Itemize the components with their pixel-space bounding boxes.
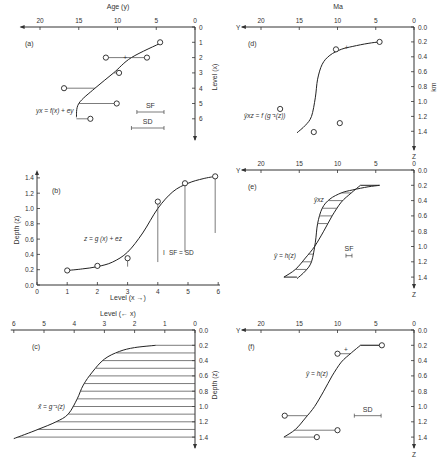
z-axis-name: Z (412, 291, 416, 298)
y-axis-label: Depth (z) (211, 371, 219, 400)
x-tick-label: 0 (193, 320, 197, 327)
y-axis-arrow (412, 146, 416, 151)
y-axis-arrow (412, 284, 416, 289)
x-tick-label: 5 (374, 160, 378, 167)
y-tick-label: 0.2 (418, 38, 427, 45)
y-tick-label: 0.6 (418, 68, 427, 75)
scale-bar-label: SD (363, 406, 373, 413)
panel-label: (c) (32, 343, 40, 351)
y-tick-label: 1.2 (25, 190, 34, 197)
x-tick-label: 2 (96, 288, 100, 295)
x-tick-label: 15 (296, 17, 304, 24)
plus-marker: + (345, 44, 349, 51)
data-point (158, 40, 163, 45)
y-tick-label: 0.8 (25, 220, 34, 227)
x-tick-label: 20 (257, 160, 265, 167)
panel-label: (a) (25, 40, 34, 48)
x-tick-label: 0 (412, 160, 416, 167)
panel-a: 201510500123456Age (y)Level (x)(a)+yx = … (20, 3, 219, 141)
plus-marker: + (123, 54, 127, 61)
z-axis-name: Z (412, 451, 416, 458)
x-tick-label: 10 (334, 160, 342, 167)
data-point (333, 47, 338, 52)
x-tick-label: 10 (334, 17, 342, 24)
y-tick-label: 0.8 (418, 388, 427, 395)
x-tick-label: 20 (257, 17, 265, 24)
data-point (116, 70, 121, 75)
data-point (95, 263, 100, 268)
y-axis-name: Y (236, 24, 241, 31)
y-axis-name: Y (236, 327, 241, 334)
x-tick-label: 0 (193, 17, 197, 24)
data-point (337, 121, 342, 126)
x-tick-label: 5 (186, 288, 190, 295)
data-point (125, 256, 130, 261)
curve-label: ŷxz = f (g⁻¹(z)) (243, 112, 285, 120)
y-axis-arrow (412, 444, 416, 449)
y-tick-label: 0.0 (418, 24, 427, 31)
y-axis-label: Level (x) (211, 64, 219, 91)
y-tick-label: 1.4 (199, 434, 208, 441)
y-tick-label: 0.8 (199, 388, 208, 395)
y-tick-label: 1.0 (25, 205, 34, 212)
y-tick-label: 1.0 (418, 243, 427, 250)
y-tick-label: 0.0 (418, 327, 427, 334)
inverse-curve (14, 345, 156, 438)
scale-bar-label: SD (143, 118, 153, 125)
panel-b: 01234560.00.20.40.60.81.01.21.4Level (x … (13, 170, 220, 302)
curve-label: yx = f(x) + ey (35, 107, 74, 115)
x-axis-arrow (241, 328, 246, 332)
x-axis-label: Ma (333, 3, 343, 10)
panel-label: (e) (248, 183, 257, 191)
data-point (144, 55, 149, 60)
curve-label: z = g (x) + ez (83, 235, 123, 243)
panel-e: 201510500.00.20.40.60.81.01.21.4YZ(e)ŷxz… (236, 160, 427, 298)
x-tick-label: 20 (257, 320, 265, 327)
y-tick-label: 0.0 (418, 167, 427, 174)
y-tick-label: 1.2 (199, 418, 208, 425)
y-tick-label: 0.6 (199, 372, 208, 379)
series-label-h: ŷ = h(z) (273, 252, 296, 260)
y-tick-label: 1.0 (199, 403, 208, 410)
x-tick-label: 15 (75, 17, 83, 24)
data-point (88, 116, 93, 121)
fitted-curve (67, 176, 215, 270)
y-tick-label: 2 (199, 54, 203, 61)
x-tick-label: 0 (412, 320, 416, 327)
data-point (335, 428, 340, 433)
x-tick-label: 6 (12, 320, 16, 327)
x-axis-arrow (20, 25, 25, 29)
x-axis-arrow (241, 168, 246, 172)
fitted-curve (297, 42, 380, 133)
data-point (335, 351, 340, 356)
y-tick-label: 0.8 (418, 228, 427, 235)
y-tick-label: 1.0 (418, 403, 427, 410)
y-axis-arrow (193, 444, 197, 449)
data-point (114, 101, 119, 106)
y-tick-label: 1.2 (418, 113, 427, 120)
curve-label: ŷ = h(z) (305, 370, 328, 378)
legend-text: SF = SD (169, 249, 194, 256)
y-tick-label: 4 (199, 85, 203, 92)
y-tick-label: 1.4 (25, 174, 34, 181)
x-tick-label: 0 (412, 17, 416, 24)
panel-f: 201510500.00.20.40.60.81.01.21.4YZ(f)+ŷ … (236, 320, 427, 458)
data-point (65, 268, 70, 273)
y-tick-label: 1.2 (418, 418, 427, 425)
x-tick-label: 5 (42, 320, 46, 327)
data-point (61, 86, 66, 91)
x-tick-label: 4 (156, 288, 160, 295)
y-axis-arrow (193, 136, 197, 141)
x-axis-label: Age (y) (107, 3, 130, 11)
y-tick-label: 1.0 (418, 98, 427, 105)
y-tick-label: 1.4 (418, 274, 427, 281)
y-tick-label: 3 (199, 69, 203, 76)
x-tick-label: 6 (216, 288, 220, 295)
x-tick-label: 15 (296, 320, 304, 327)
x-tick-label: 10 (334, 320, 342, 327)
y-tick-label: 1.4 (418, 128, 427, 135)
y-tick-label: 1.2 (418, 258, 427, 265)
x-axis-label: Level (x →) (110, 294, 146, 302)
curve-label: x̂ = g⁻¹(z) (37, 403, 65, 411)
y-tick-label: 0.4 (199, 357, 208, 364)
